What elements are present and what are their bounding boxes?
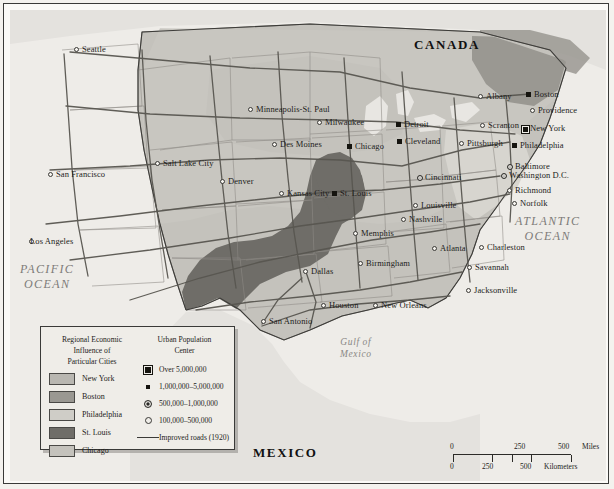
country-label-canada: CANADA	[414, 37, 480, 53]
scale-miles-tick-500: 500	[558, 442, 569, 451]
city-label: Detroit	[404, 119, 429, 129]
legend-roads-label: Improved roads (1920)	[159, 433, 229, 442]
city-marker	[261, 319, 266, 324]
scale-km-tick-250: 250	[482, 462, 493, 471]
city-label: Scranton	[488, 120, 519, 130]
legend-influence-row: Philadelphia	[49, 408, 135, 421]
legend-influence-row: Chicago	[49, 444, 135, 457]
legend-influence-column: Regional Economic Influence of Particula…	[49, 334, 135, 457]
city-label: Pittsburgh	[467, 138, 503, 148]
city-marker	[501, 173, 507, 179]
city-marker	[479, 245, 484, 250]
city-label: New York	[530, 123, 565, 133]
legend-population-title: Urban Population Center	[137, 334, 232, 356]
scale-bar-line	[453, 454, 571, 462]
map-legend: Regional Economic Influence of Particula…	[40, 326, 235, 450]
legend-swatch-label: New York	[82, 374, 114, 383]
city-label: New Orleans	[381, 300, 427, 310]
city-label: Albany	[486, 91, 512, 101]
city-marker	[317, 120, 322, 125]
sea-label-gulf-of-mexico: Gulf of Mexico	[340, 336, 372, 361]
city-label: Birmingham	[366, 258, 410, 268]
scale-km-tick-0: 0	[450, 462, 454, 471]
city-marker	[272, 142, 277, 147]
city-marker	[413, 203, 418, 208]
legend-swatch	[49, 409, 75, 421]
city-label: Richmond	[515, 185, 551, 195]
city-marker	[467, 265, 472, 270]
city-label: Cleveland	[405, 136, 440, 146]
city-label: Washington D.C.	[509, 170, 569, 180]
page-frame: SeattleSan FranciscoLos AngelesSalt Lake…	[3, 3, 609, 484]
city-label: Des Moines	[280, 139, 322, 149]
city-label: Minneapolis-St. Paul	[256, 104, 330, 114]
legend-population-label: 100,000–500,000	[159, 416, 212, 425]
scale-bar: 0 250 500 Miles 0 250 500 Kilometers	[446, 440, 586, 481]
city-label: Philadelphia	[520, 140, 564, 150]
city-label: Houston	[329, 300, 359, 310]
city-marker	[478, 94, 483, 99]
ocean-label-atlantic: ATLANTIC OCEAN	[515, 214, 580, 244]
city-label: Norfolk	[520, 198, 548, 208]
city-marker	[353, 231, 358, 236]
circle-open-icon	[137, 417, 159, 424]
legend-influence-row: New York	[49, 372, 135, 385]
legend-population-row: 500,000–1,000,000	[137, 396, 232, 411]
city-label: St. Louis	[340, 188, 372, 198]
city-marker	[522, 126, 529, 133]
city-marker	[220, 179, 225, 184]
city-marker	[459, 141, 464, 146]
legend-influence-rows: New YorkBostonPhiladelphiaSt. LouisChica…	[49, 372, 135, 457]
legend-population-label: 1,000,000–5,000,000	[159, 382, 224, 391]
city-label: Denver	[228, 176, 254, 186]
city-label: Milwaukee	[325, 117, 364, 127]
city-label: Cincinnati	[425, 172, 461, 182]
scale-km-unit: Kilometers	[544, 462, 577, 471]
city-marker	[530, 108, 535, 113]
ocean-label-pacific-line1: PACIFIC	[20, 262, 74, 277]
scale-miles-tick-250: 250	[514, 442, 525, 451]
legend-population-title-line2: Center	[137, 345, 232, 356]
city-marker	[432, 246, 437, 251]
legend-population-label: 500,000–1,000,000	[159, 399, 218, 408]
sea-label-gulf-line2: Mexico	[340, 348, 372, 360]
city-label: Chicago	[355, 141, 384, 151]
city-marker	[248, 107, 253, 112]
city-label: Atlanta	[440, 243, 466, 253]
scale-miles-unit: Miles	[582, 442, 599, 451]
city-marker	[401, 217, 406, 222]
city-marker	[512, 201, 517, 206]
city-marker	[279, 191, 284, 196]
legend-roads-row: Improved roads (1920)	[137, 430, 232, 445]
legend-population-column: Urban Population Center Over 5,000,0001,…	[137, 334, 232, 445]
city-marker	[396, 122, 401, 127]
legend-population-row: Over 5,000,000	[137, 362, 232, 377]
city-marker	[332, 191, 337, 196]
legend-population-row: 100,000–500,000	[137, 413, 232, 428]
circle-dot-icon	[137, 400, 159, 408]
city-marker	[321, 303, 326, 308]
city-label: Savannah	[475, 262, 509, 272]
legend-influence-row: St. Louis	[49, 426, 135, 439]
ocean-label-pacific: PACIFIC OCEAN	[20, 262, 74, 292]
scale-miles-tick-0: 0	[450, 442, 454, 451]
sea-label-gulf-line1: Gulf of	[340, 336, 372, 348]
legend-influence-title-line2: Influence of	[49, 345, 135, 356]
city-label: Los Angeles	[30, 236, 73, 246]
city-label: Providence	[538, 105, 577, 115]
legend-influence-title-line1: Regional Economic	[49, 334, 135, 345]
country-label-mexico: MEXICO	[253, 445, 318, 461]
city-marker	[480, 123, 485, 128]
legend-population-row: 1,000,000–5,000,000	[137, 379, 232, 394]
city-label: Kansas City	[287, 188, 329, 198]
legend-influence-title-line3: Particular Cities	[49, 356, 135, 367]
city-label: San Antonio	[269, 316, 312, 326]
city-label: Salt Lake City	[163, 158, 214, 168]
legend-swatch	[49, 391, 75, 403]
city-label: Dallas	[311, 266, 333, 276]
legend-influence-title: Regional Economic Influence of Particula…	[49, 334, 135, 367]
city-marker	[373, 303, 378, 308]
legend-population-rows: Over 5,000,0001,000,000–5,000,000500,000…	[137, 362, 232, 428]
city-label: Memphis	[361, 228, 394, 238]
city-marker	[512, 143, 517, 148]
